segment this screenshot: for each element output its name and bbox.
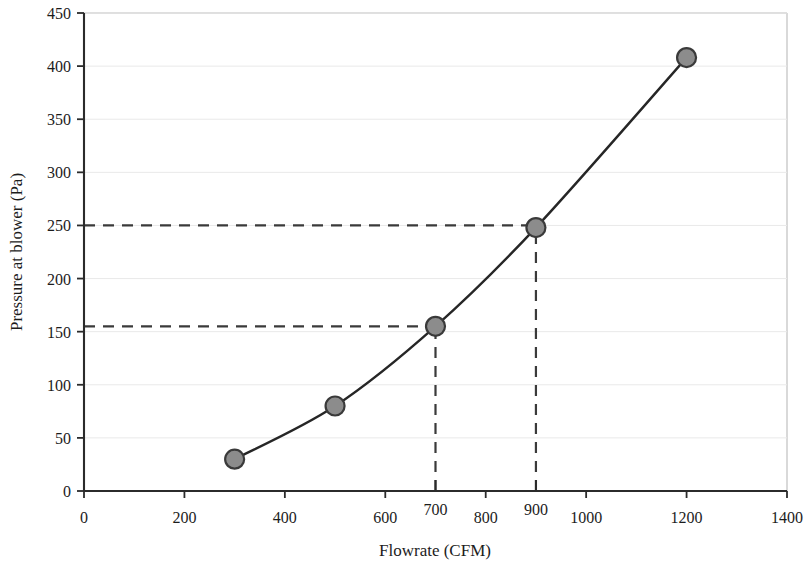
y-tick-label-350: 350 bbox=[47, 111, 71, 128]
chart-figure: 050100150200250300350400450 020040060080… bbox=[0, 0, 809, 568]
x-tick-label-1400: 1400 bbox=[771, 509, 803, 526]
chart-background bbox=[0, 0, 809, 568]
data-point-1200-408 bbox=[677, 48, 696, 67]
x-extra-tick-label-900: 900 bbox=[524, 501, 548, 518]
x-tick-label-1000: 1000 bbox=[570, 509, 602, 526]
x-tick-label-400: 400 bbox=[273, 509, 297, 526]
data-point-900-248 bbox=[526, 218, 545, 237]
data-point-500-80 bbox=[326, 397, 345, 416]
y-tick-label-50: 50 bbox=[55, 430, 71, 447]
x-axis-title: Flowrate (CFM) bbox=[379, 541, 491, 560]
data-point-300-30 bbox=[225, 450, 244, 469]
y-axis-title: Pressure at blower (Pa) bbox=[7, 173, 26, 331]
x-extra-tick-label-700: 700 bbox=[424, 501, 448, 518]
x-tick-label-1200: 1200 bbox=[671, 509, 703, 526]
y-tick-label-100: 100 bbox=[47, 377, 71, 394]
y-tick-label-450: 450 bbox=[47, 5, 71, 22]
y-tick-label-250: 250 bbox=[47, 217, 71, 234]
y-tick-label-0: 0 bbox=[63, 483, 71, 500]
data-point-700-155 bbox=[426, 317, 445, 336]
y-tick-label-150: 150 bbox=[47, 324, 71, 341]
x-tick-label-600: 600 bbox=[373, 509, 397, 526]
y-tick-label-400: 400 bbox=[47, 58, 71, 75]
x-tick-label-800: 800 bbox=[474, 509, 498, 526]
y-tick-label-300: 300 bbox=[47, 164, 71, 181]
y-tick-label-200: 200 bbox=[47, 271, 71, 288]
pressure-flowrate-line-chart: 050100150200250300350400450 020040060080… bbox=[0, 0, 809, 568]
x-tick-label-0: 0 bbox=[80, 509, 88, 526]
x-tick-label-200: 200 bbox=[172, 509, 196, 526]
